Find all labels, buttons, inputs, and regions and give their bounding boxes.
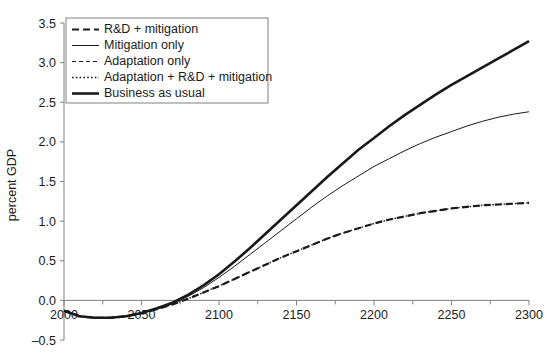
- y-tick-label: 1.5: [39, 175, 56, 189]
- x-tick-label: 2100: [205, 308, 233, 322]
- chart-container: –0.50.00.51.01.52.02.53.03.5200020502100…: [0, 0, 546, 357]
- y-tick-label: 3.5: [39, 17, 56, 31]
- legend-label: Mitigation only: [104, 38, 185, 52]
- y-axis-title-text: percent GDP: [5, 149, 19, 221]
- y-tick-label: –0.5: [32, 334, 56, 348]
- x-tick-label: 2200: [360, 308, 388, 322]
- legend-label: Adaptation + R&D + mitigation: [104, 70, 272, 84]
- x-tick-label: 2300: [515, 308, 543, 322]
- y-tick-label: 2.5: [39, 96, 56, 110]
- x-tick-label: 2250: [438, 308, 466, 322]
- legend-label: R&D + mitigation: [104, 22, 198, 36]
- y-axis-title: percent GDP: [5, 149, 19, 221]
- x-tick-label: 2150: [283, 308, 311, 322]
- y-tick-label: 2.0: [39, 135, 56, 149]
- y-tick-label: 3.0: [39, 56, 56, 70]
- legend-label: Business as usual: [104, 86, 205, 100]
- legend-label: Adaptation only: [104, 54, 191, 68]
- y-tick-label: 0.0: [39, 294, 56, 308]
- y-tick-label: 0.5: [39, 254, 56, 268]
- line-chart: –0.50.00.51.01.52.02.53.03.5200020502100…: [0, 0, 546, 357]
- series-line: [64, 112, 529, 318]
- chart-legend: R&D + mitigationMitigation onlyAdaptatio…: [66, 18, 272, 103]
- y-tick-label: 1.0: [39, 215, 56, 229]
